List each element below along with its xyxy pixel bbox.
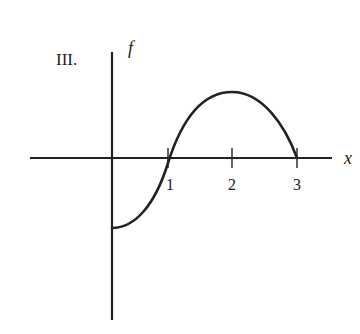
x-tick-label-2: 2 xyxy=(228,176,236,193)
x-tick-label-3: 3 xyxy=(293,176,301,193)
y-axis-label: f xyxy=(128,38,136,58)
panel-label: III. xyxy=(56,50,77,69)
x-tick-label-1: 1 xyxy=(166,176,174,193)
function-graph: III. f x 1 2 3 xyxy=(0,0,360,334)
x-axis-label: x xyxy=(343,148,352,168)
function-curve xyxy=(112,92,297,228)
